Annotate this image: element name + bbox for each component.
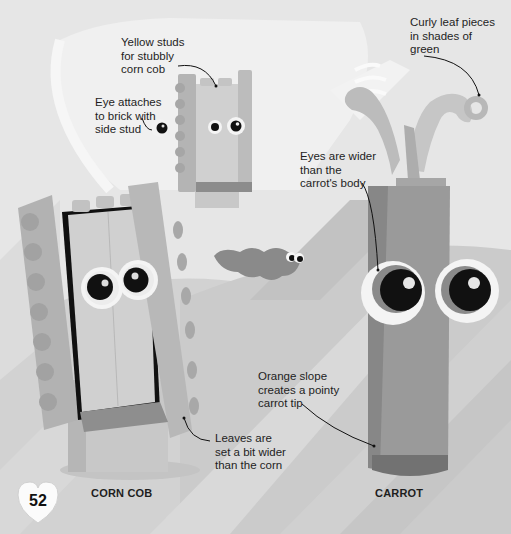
page-number: 52 — [22, 492, 54, 510]
book-page: Yellow studs for stubbly corn cob Eye at… — [0, 0, 511, 534]
heart-icon — [0, 0, 511, 534]
